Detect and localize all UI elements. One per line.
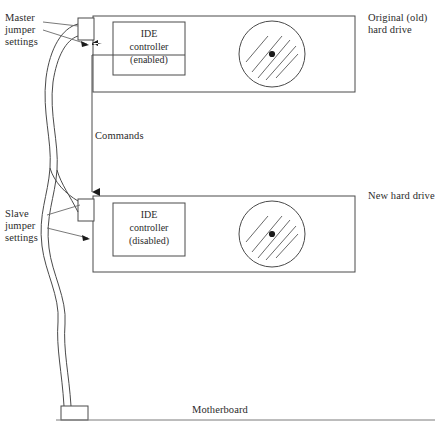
slave-jumper-leader-lower — [47, 228, 88, 238]
new-drive-ide-controller-label-line1: IDE — [113, 209, 185, 222]
motherboard-cable-plug — [61, 406, 88, 420]
ribbon-cable-slave-branch-outer — [50, 168, 78, 201]
slave-jumper-settings-label: Slave jumper settings — [5, 208, 38, 243]
original-drive-side-label: Original (old) hard drive — [368, 12, 427, 36]
new-drive-cable-connector — [78, 199, 94, 221]
original-drive-ide-controller-label-line2: controller — [113, 41, 185, 54]
ribbon-cable-outer-edge — [41, 24, 78, 406]
diagram-canvas: Master jumper settings Slave jumper sett… — [0, 0, 443, 431]
original-drive-cable-connector — [78, 18, 94, 40]
motherboard-label: Motherboard — [192, 404, 248, 416]
commands-label: Commands — [95, 130, 144, 142]
ribbon-cable-inner-edge — [48, 36, 78, 406]
new-drive-spindle-hub — [269, 231, 275, 237]
slave-jumper-leader-upper — [47, 205, 80, 215]
new-drive-side-label: New hard drive — [368, 190, 435, 202]
slave-jumper-arrowhead — [82, 235, 90, 241]
ribbon-cable-slave-branch-inner — [57, 170, 78, 212]
commands-arrowhead-bottom — [92, 188, 100, 196]
master-jumper-settings-label: Master jumper settings — [5, 12, 38, 47]
original-drive-ide-controller-label-line1: IDE — [113, 28, 185, 41]
new-drive-ide-controller-label-line2: controller — [113, 222, 185, 235]
original-drive-ide-controller-state: (enabled) — [113, 54, 185, 67]
master-jumper-arrowhead — [81, 41, 89, 47]
original-drive-spindle-hub — [269, 51, 275, 57]
new-drive-ide-controller-state: (disabled) — [113, 235, 185, 248]
master-jumper-leader-upper — [43, 22, 78, 26]
ide-jumper-diagram — [0, 0, 443, 431]
